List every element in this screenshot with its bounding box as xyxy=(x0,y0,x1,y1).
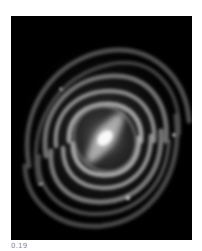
image-caption: 0.19 xyxy=(11,242,27,250)
galaxy-image xyxy=(11,16,192,240)
galaxy-graphic xyxy=(11,16,192,240)
